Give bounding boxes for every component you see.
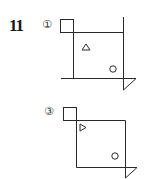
- triangle-right-icon: [80, 124, 86, 131]
- small-square: [64, 108, 77, 121]
- small-square: [61, 20, 74, 33]
- triangle-up-icon: [82, 44, 90, 50]
- flap-diagonal: [124, 79, 137, 91]
- circle-icon: [110, 66, 116, 72]
- figure-option-3: [64, 108, 138, 179]
- net-figures: [0, 0, 158, 179]
- circle-icon: [112, 153, 118, 159]
- figure-option-1: [61, 17, 137, 90]
- flap-diagonal: [126, 168, 138, 179]
